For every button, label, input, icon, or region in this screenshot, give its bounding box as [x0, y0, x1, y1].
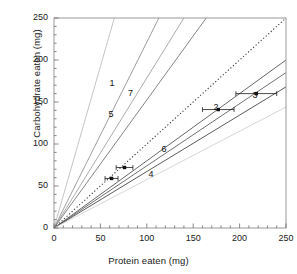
x-tick-label: 100 [135, 233, 159, 243]
series-label-6: 6 [161, 144, 166, 154]
series-line-dotted-reference [54, 18, 286, 228]
series-label-4: 4 [148, 169, 153, 179]
x-axis-label: Protein eaten (mg) [0, 255, 297, 266]
y-tick-label: 100 [20, 138, 48, 148]
y-tick-label: 250 [20, 12, 48, 22]
x-tick-label: 200 [228, 233, 252, 243]
y-tick-label: 50 [20, 180, 48, 190]
data-lines-group [54, 18, 286, 228]
series-label-5: 5 [109, 109, 114, 119]
y-tick-label: 150 [20, 96, 48, 106]
y-tick-label: 200 [20, 54, 48, 64]
chart-figure: Carbohydrate eaten (mg) Protein eaten (m… [0, 0, 297, 274]
y-tick-label: 0 [20, 222, 48, 232]
x-tick-label: 0 [42, 233, 66, 243]
series-label-7: 7 [128, 88, 133, 98]
series-line-6 [54, 18, 184, 228]
x-tick-label: 50 [88, 233, 112, 243]
series-label-2: 2 [213, 102, 218, 112]
series-line-lowest-rail [54, 107, 286, 228]
data-point-7 [116, 165, 133, 170]
x-tick-label: 150 [181, 233, 205, 243]
x-tick-label: 250 [274, 233, 297, 243]
series-line-1 [54, 18, 206, 228]
series-line-2 [54, 60, 286, 228]
series-line-3 [54, 73, 286, 228]
series-label-1: 1 [109, 78, 114, 88]
series-label-3: 3 [252, 90, 257, 100]
